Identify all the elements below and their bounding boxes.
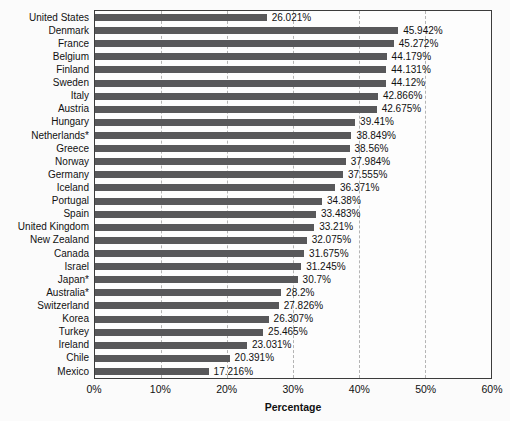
- bar-row: Hungary39.41%: [0, 116, 510, 129]
- bar: [95, 184, 335, 191]
- x-axis-title: Percentage: [94, 401, 492, 413]
- bar: [95, 329, 263, 336]
- bar-row: Austria42.675%: [0, 103, 510, 116]
- bar: [95, 211, 316, 218]
- category-label: Portugal: [0, 196, 95, 206]
- category-label: Canada: [0, 249, 95, 259]
- x-tick-label: 10%: [150, 383, 171, 395]
- bar-row: Spain33.483%: [0, 208, 510, 221]
- value-label: 38.56%: [355, 144, 389, 154]
- category-label: Denmark: [0, 26, 95, 36]
- x-tick-label: 40%: [349, 383, 370, 395]
- value-label: 28.2%: [286, 288, 314, 298]
- value-label: 23.031%: [252, 340, 291, 350]
- category-label: United States: [0, 13, 95, 23]
- category-label: Finland: [0, 65, 95, 75]
- bar-row: United Kingdom33.21%: [0, 221, 510, 234]
- category-label: Austria: [0, 104, 95, 114]
- bar-row: France45.272%: [0, 37, 510, 50]
- bar-row: Greece38.56%: [0, 142, 510, 155]
- category-label: Switzerland: [0, 301, 95, 311]
- x-tick-label: 60%: [481, 383, 502, 395]
- bar-row: Germany37.555%: [0, 168, 510, 181]
- x-tick-label: 30%: [282, 383, 303, 395]
- value-label: 39.41%: [360, 117, 394, 127]
- bar-row: Mexico17.216%: [0, 365, 510, 378]
- bar-row: Chile20.391%: [0, 352, 510, 365]
- bar-row: Israel31.245%: [0, 260, 510, 273]
- x-tick-label: 0%: [86, 383, 101, 395]
- category-label: Germany: [0, 170, 95, 180]
- bar: [95, 198, 322, 205]
- bar-row: Portugal34.38%: [0, 195, 510, 208]
- bar: [95, 158, 346, 165]
- value-label: 34.38%: [327, 196, 361, 206]
- bar-row: Denmark45.942%: [0, 24, 510, 37]
- value-label: 31.675%: [309, 249, 348, 259]
- bar: [95, 342, 247, 349]
- x-tick-label: 20%: [216, 383, 237, 395]
- bar: [95, 302, 279, 309]
- bar: [95, 80, 386, 87]
- value-label: 26.021%: [272, 13, 311, 23]
- category-label: Australia*: [0, 288, 95, 298]
- bar: [95, 132, 351, 139]
- bar-chart: United States26.021%Denmark45.942%France…: [0, 0, 510, 421]
- bar: [95, 145, 350, 152]
- category-label: Mexico: [0, 367, 95, 377]
- bar-rows: United States26.021%Denmark45.942%France…: [0, 11, 510, 378]
- category-label: Norway: [0, 157, 95, 167]
- bar-row: Finland44.131%: [0, 63, 510, 76]
- category-label: Iceland: [0, 183, 95, 193]
- category-label: Turkey: [0, 327, 95, 337]
- bar: [95, 93, 378, 100]
- value-label: 45.942%: [403, 26, 442, 36]
- bar-row: Belgium44.179%: [0, 50, 510, 63]
- bar: [95, 368, 209, 375]
- bar: [95, 276, 298, 283]
- x-axis-ticks: 0%10%20%30%40%50%60%: [0, 383, 510, 397]
- bar-row: Turkey25.465%: [0, 326, 510, 339]
- bar: [95, 237, 307, 244]
- category-label: Belgium: [0, 52, 95, 62]
- category-label: Sweden: [0, 78, 95, 88]
- value-label: 37.555%: [348, 170, 387, 180]
- value-label: 20.391%: [235, 353, 274, 363]
- category-label: New Zealand: [0, 235, 95, 245]
- bar-row: Korea26.307%: [0, 313, 510, 326]
- category-label: Japan*: [0, 275, 95, 285]
- value-label: 26.307%: [274, 314, 313, 324]
- category-label: France: [0, 39, 95, 49]
- category-label: Greece: [0, 144, 95, 154]
- bar-row: Canada31.675%: [0, 247, 510, 260]
- bar: [95, 53, 387, 60]
- bar-row: Sweden44.12%: [0, 77, 510, 90]
- value-label: 17.216%: [214, 367, 253, 377]
- bar: [95, 40, 394, 47]
- category-label: Ireland: [0, 340, 95, 350]
- value-label: 32.075%: [312, 235, 351, 245]
- category-label: Chile: [0, 353, 95, 363]
- bar: [95, 224, 314, 231]
- value-label: 30.7%: [303, 275, 331, 285]
- bar: [95, 106, 377, 113]
- value-label: 44.179%: [392, 52, 431, 62]
- category-label: Netherlands*: [0, 131, 95, 141]
- value-label: 45.272%: [399, 39, 438, 49]
- bar: [95, 171, 343, 178]
- value-label: 44.131%: [391, 65, 430, 75]
- bar: [95, 119, 355, 126]
- bar: [95, 316, 269, 323]
- value-label: 33.483%: [321, 209, 360, 219]
- bar: [95, 289, 281, 296]
- bar-row: United States26.021%: [0, 11, 510, 24]
- bar: [95, 250, 304, 257]
- bar-row: Australia*28.2%: [0, 286, 510, 299]
- bar-row: Italy42.866%: [0, 90, 510, 103]
- value-label: 42.866%: [383, 91, 422, 101]
- value-label: 25.465%: [268, 327, 307, 337]
- bar-row: New Zealand32.075%: [0, 234, 510, 247]
- value-label: 38.849%: [356, 131, 395, 141]
- bar-row: Norway37.984%: [0, 155, 510, 168]
- bar-row: Iceland36.371%: [0, 181, 510, 194]
